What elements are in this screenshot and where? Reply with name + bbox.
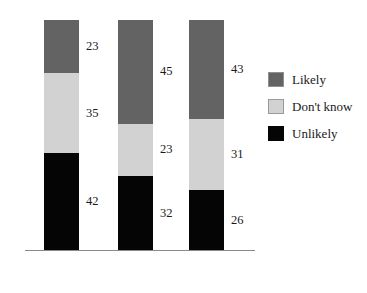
- bar-segment-likely[interactable]: [189, 20, 224, 119]
- bar-segment-likely[interactable]: [44, 20, 79, 73]
- legend-item-unlikely[interactable]: Unlikely: [268, 120, 352, 147]
- value-label-unlikely: 32: [160, 207, 173, 220]
- value-label-dontknow: 35: [86, 107, 99, 120]
- stacked-bar[interactable]: [118, 20, 153, 250]
- legend-item-likely[interactable]: Likely: [268, 66, 352, 93]
- stacked-bar[interactable]: [189, 20, 224, 250]
- bar-segment-dontknow[interactable]: [118, 124, 153, 177]
- legend-label: Likely: [292, 73, 326, 86]
- value-label-unlikely: 26: [231, 214, 244, 227]
- bar-segment-unlikely[interactable]: [118, 176, 153, 250]
- legend-swatch-icon: [268, 99, 284, 114]
- legend: Likely Don't know Unlikely: [268, 66, 352, 147]
- bar-segment-likely[interactable]: [118, 20, 153, 124]
- value-label-likely: 45: [160, 65, 173, 78]
- bar-segment-dontknow[interactable]: [189, 119, 224, 190]
- bar-segment-unlikely[interactable]: [189, 190, 224, 250]
- value-label-likely: 43: [231, 63, 244, 76]
- value-label-dontknow: 23: [160, 143, 173, 156]
- legend-swatch-icon: [268, 72, 284, 87]
- value-label-dontknow: 31: [231, 148, 244, 161]
- bar-segment-dontknow[interactable]: [44, 73, 79, 154]
- legend-label: Unlikely: [292, 127, 338, 140]
- legend-item-dontknow[interactable]: Don't know: [268, 93, 352, 120]
- value-label-unlikely: 42: [86, 195, 99, 208]
- stacked-bar[interactable]: [44, 20, 79, 250]
- legend-label: Don't know: [292, 100, 352, 113]
- plot-area: 23 35 42 Taiwan 45 23 32 India 43: [0, 0, 270, 293]
- legend-swatch-icon: [268, 126, 284, 141]
- value-label-likely: 23: [86, 40, 99, 53]
- x-axis-baseline: [25, 250, 255, 251]
- stacked-bar-chart: 23 35 42 Taiwan 45 23 32 India 43: [0, 0, 367, 293]
- bar-segment-unlikely[interactable]: [44, 153, 79, 250]
